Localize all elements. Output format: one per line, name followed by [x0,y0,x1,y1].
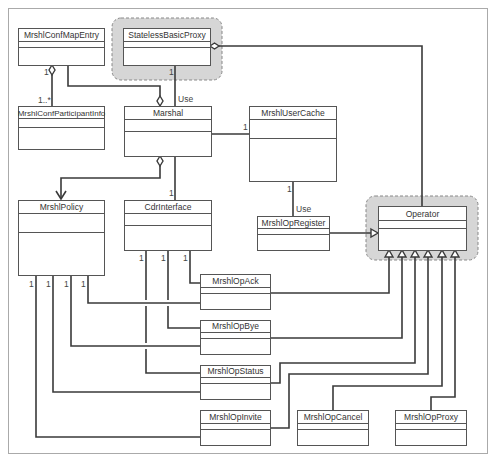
class-mrshl-conf-map-entry[interactable]: MrshlConfMapEntry [19,29,105,66]
edge-cancel-operator [333,256,442,410]
class-name: MrshlOpStatus [207,366,263,376]
edge-ack-operator [270,256,389,293]
class-name: MrshlOpAck [212,276,259,286]
edge-policy-bye [71,275,200,346]
diamond-icon [49,65,55,75]
multiplicity-label: 1 [139,253,144,263]
class-name: MrshlOpProxy [404,412,459,422]
class-name: Operator [406,209,440,219]
class-name: MrshlOpInvite [209,412,262,422]
edge-proxy-operator [431,256,455,410]
class-name: MrshlOpBye [212,321,259,331]
class-name: MrshlConfMapEntry [24,30,100,40]
class-name: MrshlOpCancel [304,412,363,422]
class-operator[interactable]: Operator [379,207,467,251]
edge-invite-operator [270,256,428,428]
class-name: StatelessBasicProxy [128,30,206,40]
edge-policy-status [53,275,200,392]
multiplicity-label: 1 [29,279,34,289]
multiplicity-label: 1 [169,188,174,198]
class-marshal[interactable]: Marshal [125,107,212,157]
class-name: MrshlPolicy [40,202,84,212]
use-label: Use [296,204,311,214]
class-mrshl-op-register[interactable]: MrshlOpRegister [258,217,330,251]
multiplicity-label: 1 [46,279,51,289]
class-name: MrshlOpRegister [262,218,326,228]
multiplicity-label: 1 [183,253,188,263]
multiplicity-label: 1 [287,184,292,194]
class-mrshl-op-status[interactable]: MrshlOpStatus [201,366,271,400]
class-mrshl-op-invite[interactable]: MrshlOpInvite [201,411,271,446]
class-mrshl-user-cache[interactable]: MrshlUserCache [250,107,337,182]
class-name: CdrInterface [145,202,192,212]
class-stateless-basic-proxy[interactable]: StatelessBasicProxy [124,29,211,66]
class-name: MrshlConfParticipantInfo [18,109,106,118]
multiplicity-label: 1 [169,67,174,77]
diamond-icon [157,96,163,106]
class-name: MrshlUserCache [261,108,325,118]
class-mrshl-conf-participant-info[interactable]: MrshlConfParticipantInfo [18,107,106,150]
use-label: Use [178,94,193,104]
edge-cdr-status [146,250,200,373]
class-mrshl-op-cancel[interactable]: MrshlOpCancel [298,411,369,446]
uml-class-diagram: MrshlConfMapEntry StatelessBasicProxy Mr… [0,0,492,459]
edge-status-operator [270,256,415,383]
edge-cdr-ack [190,250,200,283]
edge-policy-invite [36,275,200,437]
class-cdr-interface[interactable]: CdrInterface [125,201,212,251]
class-name: Marshal [153,108,183,118]
edge-bye-operator [270,256,402,338]
class-mrshl-op-bye[interactable]: MrshlOpBye [201,321,271,355]
diamond-icon [157,156,163,166]
class-mrshl-policy[interactable]: MrshlPolicy [19,201,105,276]
edge-policy-ack [88,275,200,303]
class-mrshl-op-ack[interactable]: MrshlOpAck [201,275,271,310]
multiplicity-label: 1 [64,279,69,289]
edge-marshal-policy [61,166,160,199]
multiplicity-label: 1 [81,279,86,289]
class-mrshl-op-proxy[interactable]: MrshlOpProxy [396,411,467,446]
multiplicity-label: 1 [161,253,166,263]
multiplicity-label: 1 [44,67,49,77]
multiplicity-label: 1..* [38,95,51,105]
multiplicity-label: 1 [243,122,248,132]
